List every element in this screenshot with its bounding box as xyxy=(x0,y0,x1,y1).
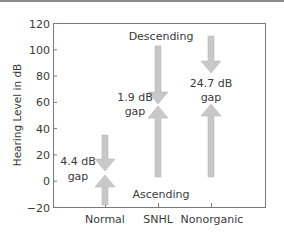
arrows xyxy=(95,36,221,205)
y-tick-60: 60 xyxy=(36,96,50,109)
y-tick-80: 80 xyxy=(36,70,50,83)
hearing-level-chart: 120 100 80 60 40 20 0 −20 Hearing Level … xyxy=(0,0,284,238)
category-nonorganic: Nonorganic xyxy=(181,213,244,226)
y-axis-title: Hearing Level in dB xyxy=(11,64,23,167)
y-tick-0: 0 xyxy=(43,175,50,188)
y-tick-20: 20 xyxy=(36,149,50,162)
x-axis-ticks xyxy=(106,203,212,207)
y-tick-labels: 120 100 80 60 40 20 0 −20 xyxy=(27,18,50,215)
y-tick-minus-20: −20 xyxy=(27,202,50,215)
nonorganic-ascending-arrow-icon xyxy=(201,104,221,177)
gap-normal-word: gap xyxy=(68,170,89,183)
y-tick-40: 40 xyxy=(36,123,50,136)
gap-nonorganic-word: gap xyxy=(201,91,222,104)
y-tick-100: 100 xyxy=(29,44,50,57)
category-normal: Normal xyxy=(85,213,125,226)
descending-label: Descending xyxy=(129,30,194,43)
gap-nonorganic-value: 24.7 dB xyxy=(190,77,233,90)
snhl-ascending-arrow-icon xyxy=(148,106,168,177)
x-category-labels: Normal SNHL Nonorganic xyxy=(85,213,243,226)
normal-ascending-arrow-icon xyxy=(95,175,115,205)
nonorganic-descending-arrow-icon xyxy=(201,36,221,73)
category-snhl: SNHL xyxy=(143,213,173,226)
gap-normal-value: 4.4 dB xyxy=(60,155,96,168)
gap-snhl-value: 1.9 dB xyxy=(117,91,153,104)
normal-descending-arrow-icon xyxy=(95,135,115,171)
y-tick-120: 120 xyxy=(29,18,50,31)
gap-snhl-word: gap xyxy=(125,105,146,118)
ascending-label: Ascending xyxy=(132,188,189,201)
